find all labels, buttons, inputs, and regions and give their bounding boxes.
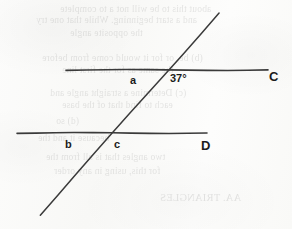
label-angle-37: 37° — [170, 73, 187, 84]
label-angle-a: a — [130, 75, 136, 86]
figure-svg — [0, 0, 292, 229]
geometry-figure: a37°CbcD — [0, 0, 292, 229]
upper-horizontal-line — [66, 70, 268, 71]
figure-page: about this to be will not a to completea… — [0, 0, 292, 229]
label-point-D: D — [201, 139, 210, 152]
label-point-C: C — [269, 70, 278, 83]
transversal-line — [40, 13, 219, 215]
label-angle-c: c — [114, 139, 120, 150]
label-angle-b: b — [65, 139, 72, 150]
